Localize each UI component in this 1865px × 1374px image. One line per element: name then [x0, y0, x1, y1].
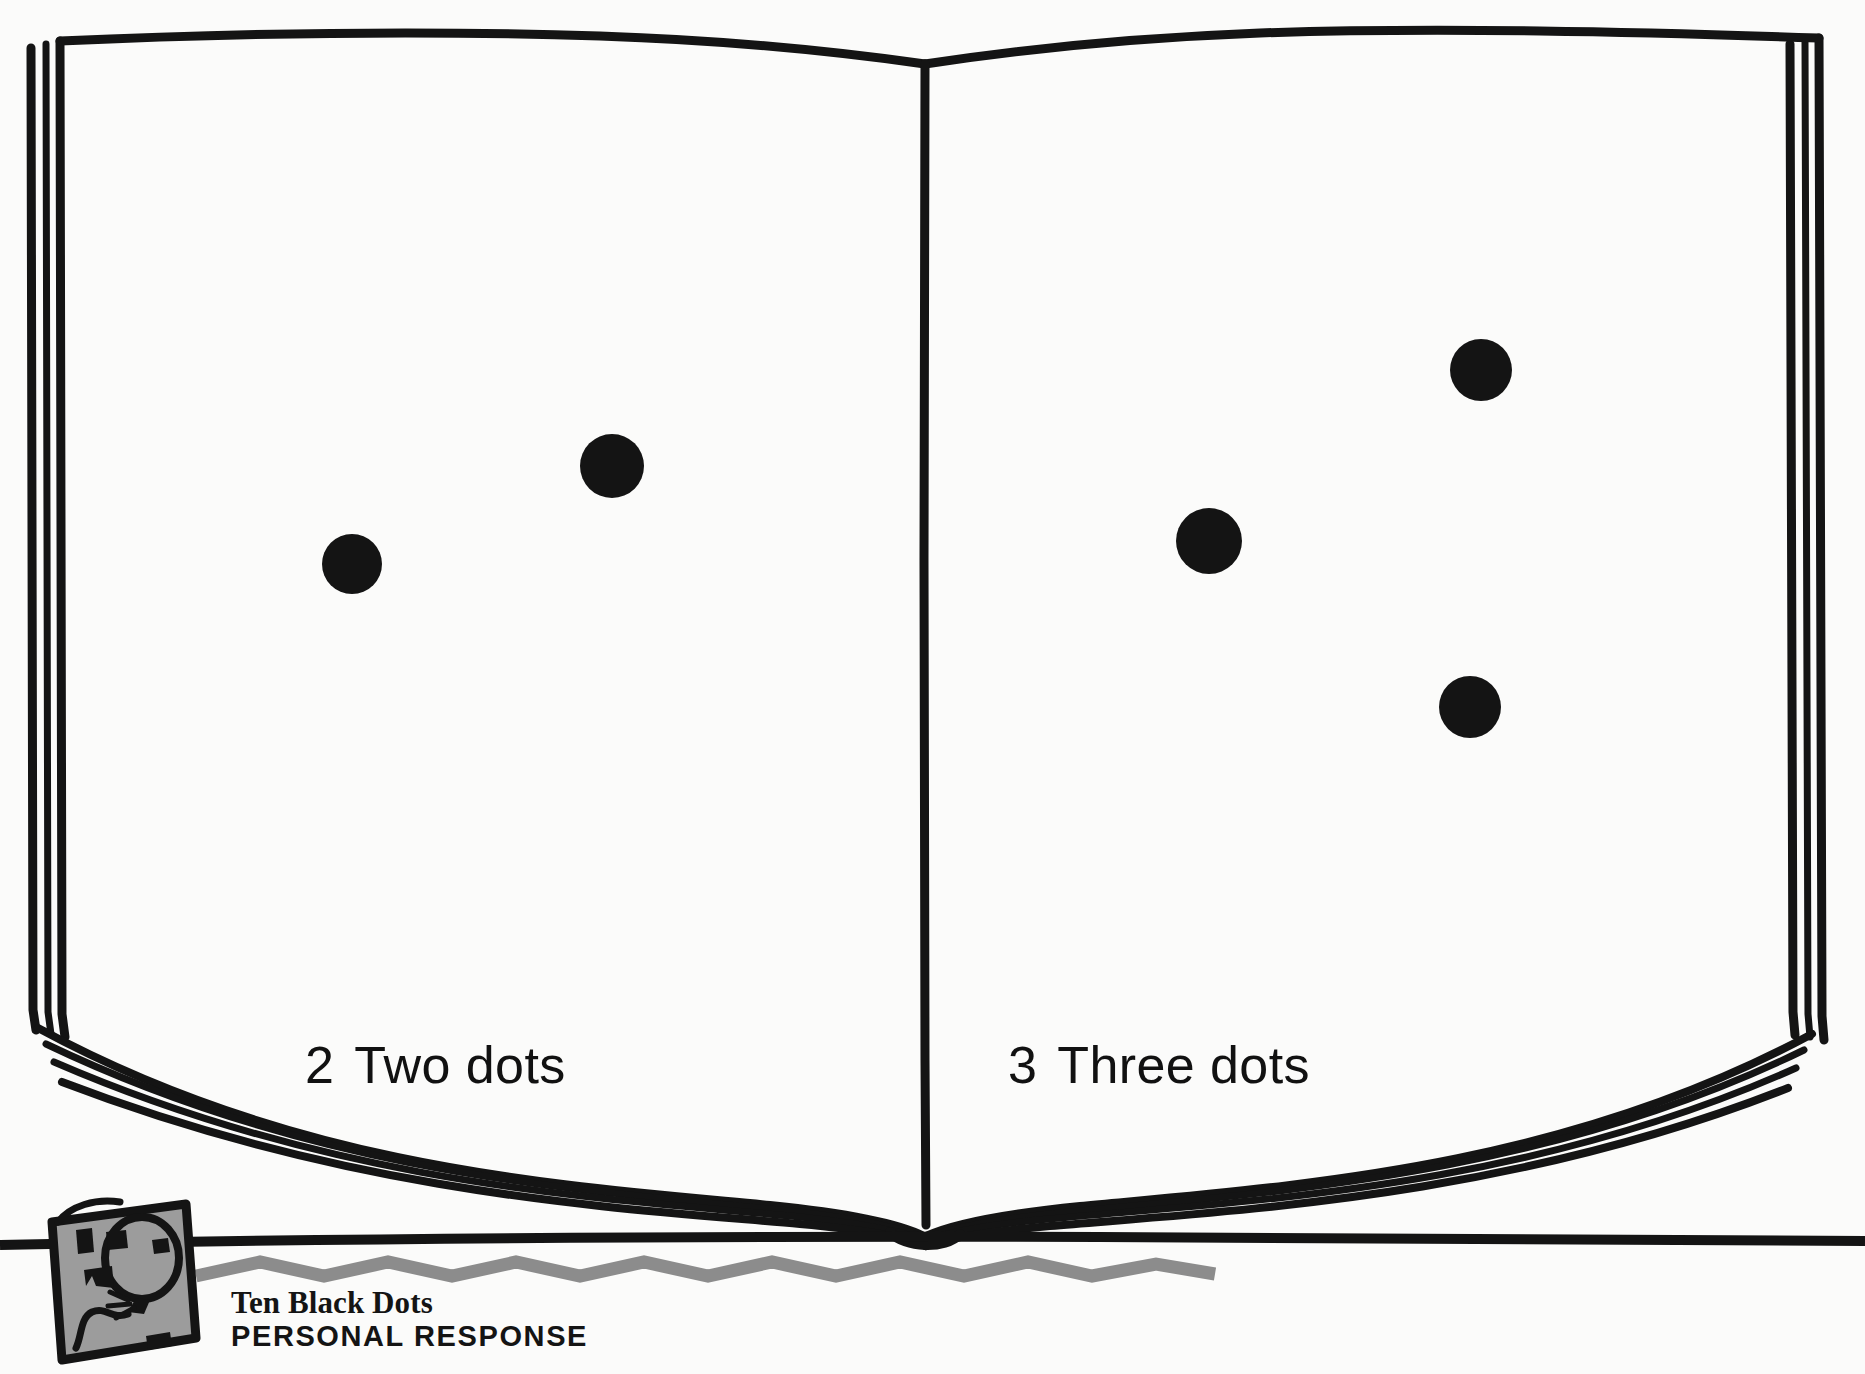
- left-page-stack-edge: [31, 41, 65, 1037]
- balloon-icon: [52, 1201, 196, 1360]
- left-page-caption-text: Two dots: [354, 1036, 565, 1094]
- right-page-caption-text: Three dots: [1057, 1036, 1310, 1094]
- dot: [580, 434, 644, 498]
- open-book-illustration: [0, 0, 1865, 1374]
- right-page-caption: 3Three dots: [1008, 1035, 1310, 1095]
- right-page-top-edge: [925, 30, 1819, 64]
- dot: [1439, 676, 1501, 738]
- left-page-dots: [322, 434, 644, 594]
- dot: [322, 534, 382, 594]
- dot: [1176, 508, 1242, 574]
- left-page-number: 2: [305, 1036, 334, 1094]
- page-root: 2Two dots 3Three dots Ten Black Dots PER…: [0, 0, 1865, 1374]
- right-page-number: 3: [1008, 1036, 1037, 1094]
- right-page-stack-edge: [1790, 38, 1824, 1040]
- right-page-dots: [1176, 339, 1512, 738]
- footer-zigzag-rule: [196, 1262, 1215, 1276]
- footer-subtitle: PERSONAL RESPONSE: [231, 1322, 588, 1351]
- left-page-caption: 2Two dots: [305, 1035, 566, 1095]
- footer: Ten Black Dots PERSONAL RESPONSE: [231, 1287, 588, 1351]
- book-spine: [924, 64, 926, 1225]
- dot: [1450, 339, 1512, 401]
- left-page-top-edge: [60, 33, 925, 64]
- footer-title: Ten Black Dots: [231, 1287, 588, 1318]
